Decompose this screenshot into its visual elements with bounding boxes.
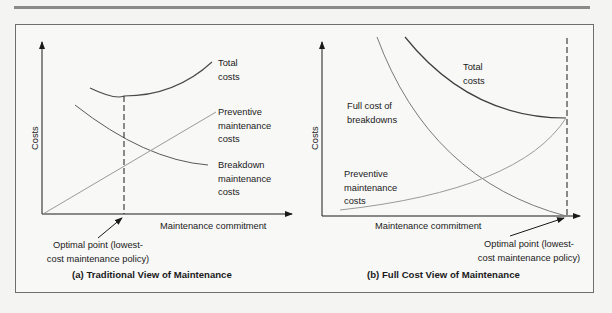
panel-a-breakdown-label: Breakdownmaintenancecosts: [218, 159, 271, 200]
panel-a-optimal-label: Optimal point (lowest-cost maintenance p…: [38, 239, 158, 266]
panel-b-optimal-label: Optimal point (lowest-cost maintenance p…: [468, 238, 590, 265]
panel-a-preventive-label: Preventivemaintenancecosts: [218, 106, 271, 147]
panel-b-optimal-arrow: [510, 218, 564, 236]
diagram-canvas: [0, 0, 612, 313]
panel-a-x-axis-label: Maintenance commitment: [160, 220, 266, 234]
panel-a-optimal-arrow: [98, 218, 122, 238]
panel-a-total-label: Totalcosts: [218, 57, 240, 84]
panel-b-preventive-label: Preventivemaintenancecosts: [344, 168, 397, 209]
panel-b-x-axis-label: Maintenance commitment: [375, 220, 481, 234]
panel-b-caption: (b) Full Cost View of Maintenance: [367, 269, 520, 280]
panel-b-total-cost-curve: [405, 37, 566, 118]
panel-a-total-cost-curve: [90, 62, 212, 97]
panel-b-total-label: Totalcosts: [463, 61, 485, 88]
panel-a-y-axis-label: Costs: [30, 126, 40, 150]
panel-a-caption: (a) Traditional View of Maintenance: [72, 269, 232, 280]
panel-b-breakdown-label: Full cost ofbreakdowns: [347, 100, 397, 127]
panel-b-y-axis-label: Costs: [310, 126, 320, 150]
